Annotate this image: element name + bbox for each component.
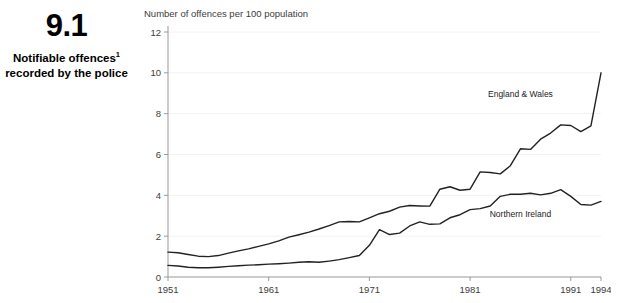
line-chart-plot: 024681012195119611971198119911994England…: [141, 22, 611, 298]
figure-caption: 9.1 Notifiable offences1 recorded by the…: [0, 8, 133, 81]
y-axis-tick-label: 6: [156, 149, 161, 160]
x-axis-tick-label: 1994: [590, 284, 611, 295]
x-axis-tick-label: 1991: [560, 284, 581, 295]
series-line-northern-ireland: [168, 190, 601, 268]
figure-title-footnote-marker: 1: [116, 50, 120, 59]
x-axis-tick-label: 1951: [157, 284, 178, 295]
figure-number: 9.1: [0, 8, 133, 44]
figure-title-line2: recorded by the police: [5, 67, 128, 79]
y-axis-tick-label: 0: [156, 272, 161, 283]
figure-root: 9.1 Notifiable offences1 recorded by the…: [0, 0, 618, 303]
y-axis-tick-label: 2: [156, 231, 161, 242]
x-axis-tick-label: 1961: [258, 284, 279, 295]
y-axis-tick-label: 4: [156, 190, 161, 201]
y-axis-tick-label: 8: [156, 108, 161, 119]
figure-title-line1: Notifiable offences: [13, 52, 116, 64]
x-axis-tick-label: 1981: [460, 284, 481, 295]
series-line-england-wales: [168, 73, 601, 257]
series-annotation-label: England & Wales: [488, 89, 553, 99]
chart-container: Number of offences per 100 population 02…: [141, 8, 611, 298]
series-annotation-label: Northern Ireland: [490, 209, 552, 219]
y-axis-tick-label: 12: [150, 27, 161, 38]
x-axis-tick-label: 1971: [359, 284, 380, 295]
y-axis-title: Number of offences per 100 population: [144, 8, 308, 19]
y-axis-tick-label: 10: [150, 67, 161, 78]
figure-title: Notifiable offences1 recorded by the pol…: [0, 51, 133, 81]
